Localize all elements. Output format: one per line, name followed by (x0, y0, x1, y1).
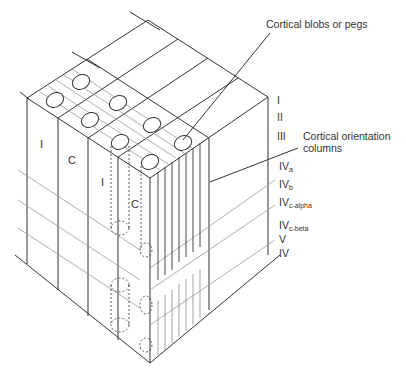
layer-label-IV-bottom: IV (279, 247, 289, 259)
blobs-leader (183, 33, 270, 140)
column-label-mid-C: C (131, 198, 139, 210)
orientation-callout-line1: Cortical orientation (303, 130, 391, 142)
layer-label-IVb: IVb (279, 178, 293, 194)
layer-label-II: II (277, 111, 283, 123)
layer-label-I: I (277, 94, 280, 106)
column-label-mid-I: I (101, 176, 104, 188)
layer-label-III: III (277, 130, 286, 142)
cortical-hypercolumn-diagram (0, 0, 406, 378)
orientation-callout-line2: columns (303, 142, 342, 154)
layer-label-IVc-alpha: IVc-alpha (279, 196, 312, 212)
layer-label-IVa: IVa (279, 160, 293, 176)
column-label-left-C: C (68, 154, 76, 166)
layer-label-V: V (279, 233, 286, 245)
column-label-left-I: I (40, 138, 43, 150)
blobs-callout: Cortical blobs or pegs (266, 18, 368, 30)
